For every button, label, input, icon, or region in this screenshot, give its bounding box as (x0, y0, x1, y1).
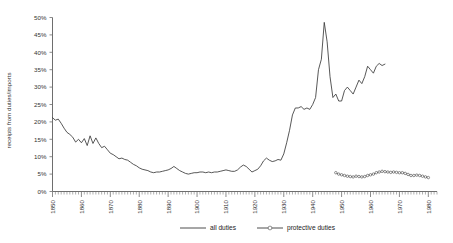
x-tick-label: 1970 (396, 199, 403, 213)
y-tick-label: 50% (34, 14, 47, 21)
y-tick-label: 20% (34, 118, 47, 125)
x-tick-label: 1960 (367, 199, 374, 213)
series-data-point (413, 174, 416, 177)
y-axis-tick-labels: 0%5%10%15%20%25%30%35%40%45%50% (34, 14, 47, 195)
y-tick-label: 15% (34, 136, 47, 143)
series-data-point (384, 170, 387, 173)
series-data-point (416, 174, 419, 177)
y-tick-label: 30% (34, 83, 47, 90)
series-data-point (340, 174, 343, 177)
x-tick-label: 1860 (78, 199, 85, 213)
series-data-point (398, 171, 401, 174)
y-axis-title: receipts from duties/imports (5, 73, 12, 149)
legend-label: protective duties (287, 224, 336, 232)
series-data-point (358, 175, 361, 178)
chart-legend: all dutiesprotective duties (180, 224, 336, 232)
y-tick-label: 0% (38, 188, 47, 195)
series-data-point (352, 176, 355, 179)
x-tick-label: 1910 (222, 199, 229, 213)
x-tick-label: 1980 (425, 199, 432, 213)
series-data-point (361, 176, 364, 179)
series-data-point (389, 171, 392, 174)
tariff-rate-line-chart: 0%5%10%15%20%25%30%35%40%45%50% 18501860… (0, 0, 453, 243)
x-tick-label: 1890 (165, 199, 172, 213)
series-data-point (381, 170, 384, 173)
series-data-point (387, 171, 390, 174)
series-data-point (392, 171, 395, 174)
series-data-point (337, 173, 340, 176)
y-tick-label: 40% (34, 49, 47, 56)
x-tick-label: 1880 (136, 199, 143, 213)
series-data-point (355, 175, 358, 178)
x-tick-label: 1920 (251, 199, 258, 213)
data-series-group (53, 22, 430, 178)
series-data-point (407, 173, 410, 176)
series-data-point (404, 172, 407, 175)
series-data-point (346, 175, 349, 178)
y-tick-label: 45% (34, 31, 47, 38)
series-data-point (363, 175, 366, 178)
legend-label: all duties (210, 224, 237, 231)
chart-canvas: 0%5%10%15%20%25%30%35%40%45%50% 18501860… (0, 0, 453, 243)
x-tick-label: 1940 (309, 199, 316, 213)
series-data-point (349, 175, 352, 178)
y-tick-label: 35% (34, 66, 47, 73)
x-tick-label: 1900 (193, 199, 200, 213)
series-data-point (395, 171, 398, 174)
series-data-point (378, 171, 381, 174)
series-data-point (401, 171, 404, 174)
series-data-point (410, 174, 413, 177)
y-tick-label: 25% (34, 101, 47, 108)
series-line-path (53, 22, 385, 174)
series-data-point (375, 171, 378, 174)
series-data-point (424, 176, 427, 179)
series-data-point (366, 174, 369, 177)
legend-marker-icon (268, 226, 272, 230)
x-axis-tick-labels: 1850186018701880189019001910192019301940… (49, 199, 432, 213)
series-protective-duties (335, 170, 430, 179)
y-tick-label: 10% (34, 153, 47, 160)
series-data-point (343, 174, 346, 177)
series-data-point (335, 171, 338, 174)
series-data-point (372, 173, 375, 176)
y-tick-label: 5% (38, 170, 47, 177)
x-tick-label: 1870 (107, 199, 114, 213)
x-tick-label: 1850 (49, 199, 56, 213)
series-data-point (427, 176, 430, 179)
series-data-point (369, 174, 372, 177)
x-tick-label: 1930 (280, 199, 287, 213)
series-all-duties (53, 22, 385, 174)
series-data-point (418, 174, 421, 177)
series-data-point (421, 175, 424, 178)
x-tick-label: 1950 (338, 199, 345, 213)
